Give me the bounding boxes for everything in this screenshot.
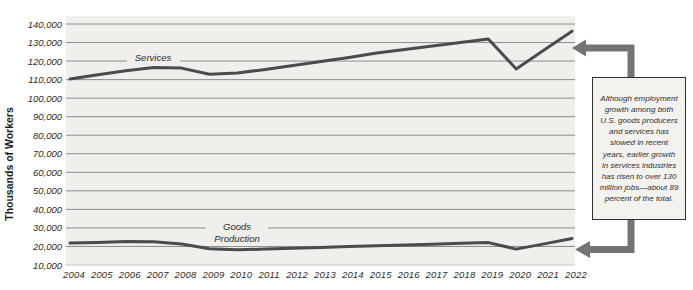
y-tick-label: 90,000 <box>33 111 63 122</box>
services-label: Services <box>135 52 172 63</box>
x-tick-label: 2006 <box>118 269 141 280</box>
x-tick-label: 2016 <box>397 269 420 280</box>
goods-label-line1: Goods <box>223 221 251 232</box>
y-tick-label: 30,000 <box>33 222 63 233</box>
x-tick-label: 2015 <box>369 269 392 280</box>
x-tick-label: 2020 <box>508 269 531 280</box>
x-tick-label: 2019 <box>480 269 503 280</box>
employment-chart-figure: 140,000130,000120,000110,000100,00090,00… <box>0 0 693 290</box>
goods-label-line2: Production <box>214 233 259 244</box>
annotation-box: Although employment growth among both U.… <box>592 77 686 220</box>
y-tick-label: 70,000 <box>33 148 63 159</box>
x-tick-label: 2004 <box>62 269 85 280</box>
y-tick-label: 130,000 <box>28 37 63 48</box>
x-tick-label: 2008 <box>174 269 197 280</box>
y-tick-label: 10,000 <box>33 260 63 271</box>
annotation-text: Although employment growth among both U.… <box>599 93 679 203</box>
x-tick-label: 2005 <box>90 269 113 280</box>
arrow-to-goods-icon <box>575 220 635 258</box>
x-tick-label: 2014 <box>341 269 364 280</box>
x-tick-label: 2021 <box>536 269 559 280</box>
x-tick-label: 2013 <box>313 269 336 280</box>
x-tick-label: 2007 <box>146 269 169 280</box>
y-tick-label: 100,000 <box>28 93 63 104</box>
y-tick-label: 20,000 <box>32 241 63 252</box>
y-tick-label: 140,000 <box>28 19 63 30</box>
y-tick-label: 120,000 <box>28 56 63 67</box>
x-tick-label: 2022 <box>564 269 587 280</box>
x-tick-label: 2012 <box>285 269 308 280</box>
arrow-to-services-icon <box>572 40 635 79</box>
y-tick-label: 110,000 <box>28 74 62 85</box>
y-tick-label: 60,000 <box>33 167 63 178</box>
y-axis-title: Thousands of Workers <box>3 107 15 221</box>
y-tick-label: 50,000 <box>33 185 63 196</box>
x-tick-label: 2011 <box>258 269 280 280</box>
x-tick-label: 2017 <box>425 269 448 280</box>
x-tick-label: 2009 <box>201 269 224 280</box>
y-tick-label: 80,000 <box>33 130 63 141</box>
x-tick-label: 2010 <box>229 269 252 280</box>
y-tick-label: 40,000 <box>33 204 63 215</box>
line-chart: 140,000130,000120,000110,000100,00090,00… <box>0 0 693 290</box>
x-tick-label: 2018 <box>452 269 475 280</box>
